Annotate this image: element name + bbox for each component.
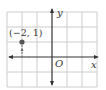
- x-axis-label: x: [91, 59, 97, 70]
- origin-label: O: [55, 58, 63, 69]
- point-marker: [19, 39, 24, 44]
- drop-arrow-icon: [21, 48, 24, 51]
- coordinate-plane: (−2, 1) y x O: [0, 0, 106, 90]
- point-label: (−2, 1): [9, 27, 43, 38]
- y-axis-down-arrow-icon: [50, 81, 54, 86]
- x-axis-left-arrow-icon: [8, 55, 13, 59]
- y-axis-up-arrow-icon: [50, 8, 54, 13]
- y-axis-label: y: [56, 7, 63, 18]
